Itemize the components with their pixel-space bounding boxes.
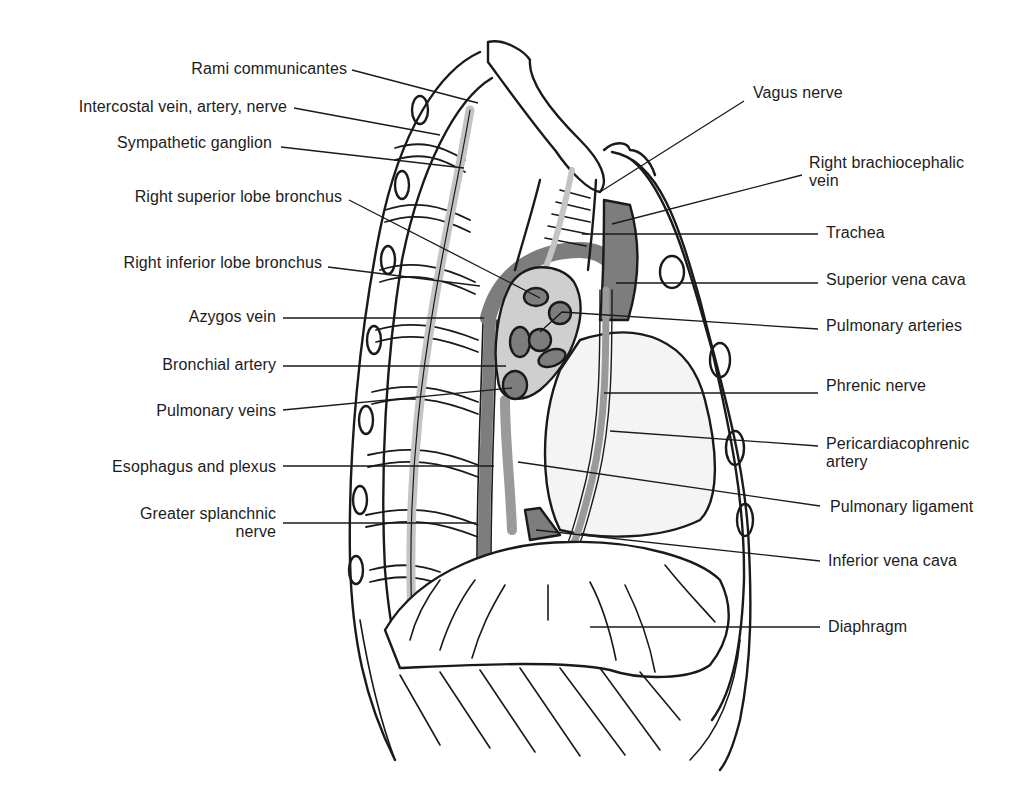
label-inferior-vena-cava: Inferior vena cava — [828, 552, 957, 570]
label-esophagus-and-plexus: Esophagus and plexus — [112, 458, 276, 476]
pericardium — [545, 333, 715, 537]
first-rib — [488, 41, 604, 192]
label-pulmonary-arteries: Pulmonary arteries — [826, 317, 962, 335]
label-pericardiacophrenic-artery: Pericardiacophrenicartery — [826, 435, 969, 471]
label-right-superior-lobe-bronchus: Right superior lobe bronchus — [135, 188, 342, 206]
leader-line-pulmonary-veins — [283, 388, 512, 410]
esophagus-shape — [505, 400, 512, 530]
label-rami-communicantes: Rami communicantes — [191, 60, 347, 78]
pulmonary-artery-1 — [524, 288, 548, 306]
label-greater-splanchnic-nerve: Greater splanchnicnerve — [140, 505, 276, 541]
leader-line-right-brachiocephalic-vein — [612, 175, 802, 224]
leader-line-intercostal-vein-artery-nerve — [294, 108, 440, 135]
label-pulmonary-ligament: Pulmonary ligament — [830, 498, 973, 516]
leader-line-pulmonary-arteries — [540, 312, 818, 332]
label-trachea: Trachea — [826, 224, 885, 242]
label-right-inferior-lobe-bronchus: Right inferior lobe bronchus — [124, 254, 322, 272]
thoracic-cavity-illustration — [0, 0, 1031, 794]
label-azygos-vein: Azygos vein — [189, 308, 276, 326]
azygos-vein-shape — [484, 320, 490, 560]
label-right-brachiocephalic-vein: Right brachiocephalicvein — [809, 154, 964, 190]
label-phrenic-nerve: Phrenic nerve — [826, 377, 926, 395]
sympathetic-trunk — [411, 110, 470, 620]
pulmonary-vein — [503, 371, 527, 399]
label-sympathetic-ganglion: Sympathetic ganglion — [117, 134, 272, 152]
diaphragm-shape — [385, 542, 729, 677]
leader-line-right-superior-lobe-bronchus — [349, 200, 540, 298]
label-bronchial-artery: Bronchial artery — [162, 356, 276, 374]
label-vagus-nerve: Vagus nerve — [753, 84, 843, 102]
leader-line-vagus-nerve — [600, 101, 744, 192]
leader-line-right-inferior-lobe-bronchus — [328, 267, 480, 286]
label-superior-vena-cava: Superior vena cava — [826, 271, 966, 289]
label-diaphragm: Diaphragm — [828, 618, 907, 636]
anatomy-figure: Rami communicantes Intercostal vein, art… — [0, 0, 1031, 794]
label-intercostal-vein-artery-nerve: Intercostal vein, artery, nerve — [79, 98, 287, 116]
label-pulmonary-veins: Pulmonary veins — [156, 402, 276, 420]
